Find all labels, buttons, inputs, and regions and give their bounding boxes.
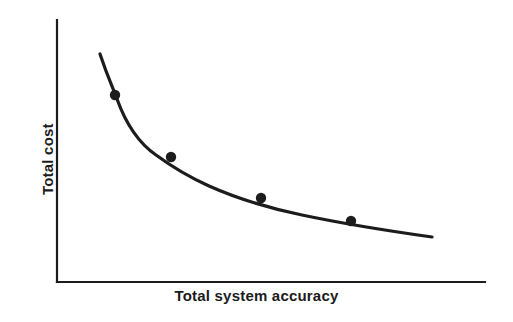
x-axis-label: Total system accuracy (0, 288, 513, 303)
cost-curve (100, 54, 432, 237)
y-axis-label: Total cost (40, 0, 55, 195)
data-point-markers (110, 90, 356, 226)
data-point (166, 152, 176, 162)
chart-figure: Total cost Total system accuracy (0, 0, 513, 322)
chart-canvas (0, 0, 513, 322)
data-point (110, 90, 120, 100)
data-point (346, 216, 356, 226)
data-point (256, 193, 266, 203)
